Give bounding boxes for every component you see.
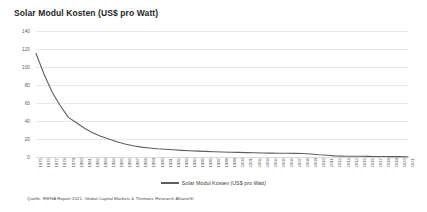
x-axis-tick-label: 2013 (346, 158, 351, 168)
y-axis-tick-label: 140 (22, 29, 30, 34)
x-axis-tick-label: 2010 (321, 158, 326, 168)
plot-area (36, 31, 408, 157)
x-axis-tick-label: 1991 (168, 158, 173, 168)
x-axis: 1975197619771978197919801981198219831984… (36, 158, 408, 180)
x-axis-tick-label: 2000 (240, 158, 245, 168)
x-axis-tick-label: 2011 (329, 158, 334, 167)
line-series-solar-modul-kosten (36, 31, 408, 157)
x-axis-tick-label: 2017 (378, 158, 383, 168)
x-axis-tick-label: 2016 (370, 158, 375, 168)
y-axis-tick-label: 60 (25, 101, 30, 106)
x-axis-tick-label: 2008 (305, 158, 310, 168)
x-axis-tick-label: 1988 (143, 158, 148, 168)
x-axis-tick-label: 2003 (265, 158, 270, 168)
y-axis-tick-label: 80 (25, 83, 30, 88)
x-axis-tick-label: 2004 (273, 158, 278, 168)
x-axis-tick-label: 2019 (394, 158, 399, 168)
y-axis-tick-label: 0 (27, 155, 30, 160)
x-axis-tick-label: 1981 (87, 158, 92, 168)
x-axis-tick-label: 1979 (71, 158, 76, 168)
x-axis-tick-label: 1990 (160, 158, 165, 168)
x-axis-tick-label: 1978 (62, 158, 67, 168)
x-axis-tick-label: 2020 (402, 158, 407, 168)
y-axis-tick-label: 100 (22, 65, 30, 70)
x-axis-tick-label: 1986 (127, 158, 132, 168)
x-axis-tick-label: 1977 (54, 158, 59, 168)
x-axis-tick-label: 2014 (354, 158, 359, 168)
x-axis-tick-label: 2006 (289, 158, 294, 168)
x-axis-tick-label: 1982 (95, 158, 100, 168)
x-axis-tick-label: 1992 (176, 158, 181, 168)
x-axis-tick-label: 2009 (313, 158, 318, 168)
source-note: Quelle: IRENA Report 2021, Global Capita… (27, 196, 193, 201)
legend-label: Solar Modul Kosten (US$ pro Watt) (182, 180, 266, 186)
y-axis-tick-label: 20 (25, 137, 30, 142)
legend-swatch-icon (161, 182, 179, 184)
x-axis-tick-label: 1985 (119, 158, 124, 168)
x-axis-tick-label: 2021 (410, 158, 415, 168)
chart-page: Solar Modul Kosten (US$ pro Watt) 020406… (0, 0, 427, 212)
x-axis-tick-label: 2005 (281, 158, 286, 168)
x-axis-tick-label: 1983 (103, 158, 108, 168)
x-axis-tick-label: 2002 (257, 158, 262, 168)
y-axis-tick-label: 120 (22, 47, 30, 52)
x-axis-tick-label: 1999 (232, 158, 237, 168)
x-axis-tick-label: 1998 (224, 158, 229, 168)
y-axis-tick-label: 40 (25, 119, 30, 124)
x-axis-tick-label: 2018 (386, 158, 391, 168)
x-axis-tick-label: 1984 (111, 158, 116, 168)
x-axis-tick-label: 1993 (184, 158, 189, 168)
x-axis-tick-label: 1975 (38, 158, 43, 168)
y-axis: 020406080100120140 (0, 31, 33, 157)
series-polyline (36, 54, 408, 157)
x-axis-tick-label: 2012 (337, 158, 342, 168)
x-axis-tick-label: 1976 (46, 158, 51, 168)
x-axis-tick-label: 1995 (200, 158, 205, 168)
x-axis-tick-label: 1989 (151, 158, 156, 168)
chart-title: Solar Modul Kosten (US$ pro Watt) (14, 8, 158, 18)
x-axis-tick-label: 1996 (208, 158, 213, 168)
x-axis-tick-label: 2015 (362, 158, 367, 168)
x-axis-tick-label: 1994 (192, 158, 197, 168)
chart-legend: Solar Modul Kosten (US$ pro Watt) (0, 180, 427, 186)
x-axis-tick-label: 2001 (248, 158, 253, 168)
x-axis-tick-label: 2007 (297, 158, 302, 168)
x-axis-tick-label: 1997 (216, 158, 221, 168)
x-axis-tick-label: 1980 (79, 158, 84, 168)
x-axis-tick-label: 1987 (135, 158, 140, 168)
